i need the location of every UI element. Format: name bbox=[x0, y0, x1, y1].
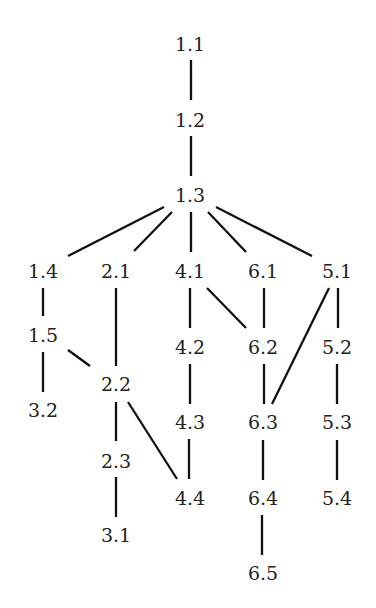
node-6-3: 6.3 bbox=[248, 413, 278, 432]
node-1-5: 1.5 bbox=[28, 326, 58, 345]
node-5-4: 5.4 bbox=[322, 489, 352, 508]
edge-4.1-6.2 bbox=[207, 288, 246, 328]
node-6-2: 6.2 bbox=[248, 338, 278, 357]
edge-2.2-4.4 bbox=[128, 402, 177, 479]
diagram-edges bbox=[0, 0, 376, 608]
node-3-1: 3.1 bbox=[101, 526, 131, 545]
node-1-1: 1.1 bbox=[175, 35, 205, 54]
node-6-1: 6.1 bbox=[248, 262, 278, 281]
node-2-1: 2.1 bbox=[101, 262, 131, 281]
node-4-2: 4.2 bbox=[175, 338, 205, 357]
edge-1.3-5.1 bbox=[216, 207, 312, 256]
node-5-2: 5.2 bbox=[322, 338, 352, 357]
node-4-1: 4.1 bbox=[175, 262, 205, 281]
node-4-3: 4.3 bbox=[175, 413, 205, 432]
node-5-3: 5.3 bbox=[322, 413, 352, 432]
edge-1.3-6.1 bbox=[208, 212, 246, 252]
edge-1.5-2.2 bbox=[68, 350, 90, 366]
node-2-2: 2.2 bbox=[101, 375, 131, 394]
node-2-3: 2.3 bbox=[101, 452, 131, 471]
node-1-4: 1.4 bbox=[28, 262, 58, 281]
node-1-3: 1.3 bbox=[175, 186, 205, 205]
node-6-4: 6.4 bbox=[248, 489, 278, 508]
node-3-2: 3.2 bbox=[28, 401, 58, 420]
node-6-5: 6.5 bbox=[248, 564, 278, 583]
hasse-diagram: 1.11.21.31.42.14.16.15.11.54.26.25.22.23… bbox=[0, 0, 376, 608]
edge-1.3-2.1 bbox=[134, 212, 172, 251]
edge-1.3-1.4 bbox=[68, 207, 164, 256]
node-4-4: 4.4 bbox=[175, 489, 205, 508]
edge-5.1-6.3 bbox=[272, 288, 329, 404]
node-1-2: 1.2 bbox=[175, 111, 205, 130]
node-5-1: 5.1 bbox=[322, 262, 352, 281]
